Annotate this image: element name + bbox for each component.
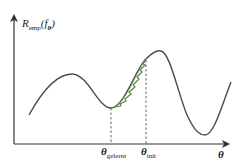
y-axis-label: Remp(fθ) [22, 18, 55, 32]
tick-subscript: gelernt [107, 152, 126, 160]
tick-theta-learned: θgelernt [101, 146, 126, 160]
tick-subscript: init [147, 152, 156, 160]
y-label-main: R [22, 17, 29, 29]
tick-theta-init: θinit [141, 146, 156, 160]
x-axis-label: θ [218, 149, 224, 160]
y-label-close: ) [51, 17, 55, 29]
y-label-sub: emp [29, 24, 41, 32]
y-label-arg: (f [41, 17, 48, 29]
